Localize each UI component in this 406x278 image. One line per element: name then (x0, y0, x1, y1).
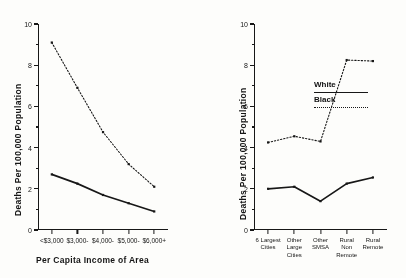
y-tick-2 (34, 188, 38, 189)
point-white-2 (319, 200, 321, 202)
line-white-left (52, 174, 154, 211)
point-white-1 (76, 183, 78, 185)
y-tick-8 (250, 65, 254, 66)
x-tick-2 (102, 230, 103, 234)
point-black-0 (51, 41, 53, 43)
x-tick-label-3: $5,000- (118, 237, 140, 245)
y-tick-label-8: 8 (244, 62, 248, 69)
y-tick-4 (34, 147, 38, 148)
y-tick-label-6: 6 (28, 103, 32, 110)
y-tick-8 (34, 65, 38, 66)
point-white-0 (51, 173, 53, 175)
line-black-right (268, 60, 373, 142)
point-black-4 (372, 60, 374, 62)
y-tick-label-8: 8 (28, 62, 32, 69)
y-tick-10 (250, 23, 254, 24)
y-tick-label-0: 0 (28, 227, 32, 234)
y-tick-1 (252, 209, 255, 210)
x-tick-0 (268, 230, 269, 234)
x-tick-label-1: $3,000- (66, 237, 88, 245)
x-tick-3 (346, 230, 347, 234)
point-white-1 (293, 186, 295, 188)
y-tick-7 (252, 85, 255, 86)
y-tick-label-0: 0 (244, 227, 248, 234)
y-tick-9 (252, 44, 255, 45)
x-tick-label-1: Other Large Cities (287, 237, 302, 259)
point-black-2 (102, 131, 104, 133)
x-tick-4 (372, 230, 373, 234)
plot-area-right: White Black 02468106 Largest CitiesOther… (254, 24, 387, 230)
point-black-0 (267, 141, 269, 143)
y-tick-6 (34, 106, 38, 107)
x-tick-label-2: Other SMSA (312, 237, 329, 252)
y-tick-3 (252, 168, 255, 169)
point-black-4 (153, 186, 155, 188)
point-black-3 (346, 59, 348, 61)
x-tick-label-0: 6 Largest Cities (256, 237, 281, 252)
x-tick-2 (320, 230, 321, 234)
y-tick-10 (34, 23, 38, 24)
y-tick-label-2: 2 (28, 185, 32, 192)
point-black-3 (128, 163, 130, 165)
x-tick-1 (294, 230, 295, 234)
y-tick-0 (250, 229, 254, 230)
y-tick-5 (252, 126, 255, 127)
x-tick-label-4: Rural Remote (362, 237, 383, 252)
line-white-right (268, 177, 373, 201)
y-tick-2 (250, 188, 254, 189)
plot-area-left: 0246810<$3,000$3,000-$4,000-$5,000-$6,00… (38, 24, 168, 230)
line-black-left (52, 43, 154, 187)
x-axis-title-left: Per Capita Income of Area (36, 255, 149, 265)
y-tick-1 (36, 209, 39, 210)
chart-panel-urbanicity: Deaths Per 100,000 Population White Blac… (203, 0, 406, 278)
point-black-2 (319, 140, 321, 142)
y-tick-3 (36, 168, 39, 169)
y-axis-title-left: Deaths Per 100,000 Population (13, 84, 23, 216)
x-tick-0 (51, 230, 52, 234)
x-tick-label-0: <$3,000 (40, 237, 64, 245)
point-black-1 (76, 87, 78, 89)
y-tick-label-4: 4 (244, 144, 248, 151)
point-black-1 (293, 135, 295, 137)
point-white-0 (267, 188, 269, 190)
point-white-4 (153, 210, 155, 212)
series-lines-left (38, 24, 168, 230)
x-tick-4 (154, 230, 155, 234)
point-white-3 (128, 202, 130, 204)
y-tick-label-10: 10 (24, 21, 32, 28)
x-tick-3 (128, 230, 129, 234)
figure-two-panel-line-charts: Deaths Per 100,000 Population 0246810<$3… (0, 0, 406, 278)
point-white-2 (102, 194, 104, 196)
x-tick-1 (77, 230, 78, 234)
y-tick-0 (34, 229, 38, 230)
y-tick-5 (36, 126, 39, 127)
y-tick-6 (250, 106, 254, 107)
series-lines-right (254, 24, 387, 230)
y-tick-label-2: 2 (244, 185, 248, 192)
y-tick-4 (250, 147, 254, 148)
y-tick-label-10: 10 (240, 21, 248, 28)
y-tick-label-6: 6 (244, 103, 248, 110)
chart-panel-income: Deaths Per 100,000 Population 0246810<$3… (0, 0, 203, 278)
y-tick-label-4: 4 (28, 144, 32, 151)
y-tick-9 (36, 44, 39, 45)
y-tick-7 (36, 85, 39, 86)
x-tick-label-3: Rural Non Remote (336, 237, 357, 259)
x-tick-label-4: $6,000+ (142, 237, 166, 245)
point-white-4 (372, 176, 374, 178)
x-tick-label-2: $4,000- (92, 237, 114, 245)
point-white-3 (346, 183, 348, 185)
